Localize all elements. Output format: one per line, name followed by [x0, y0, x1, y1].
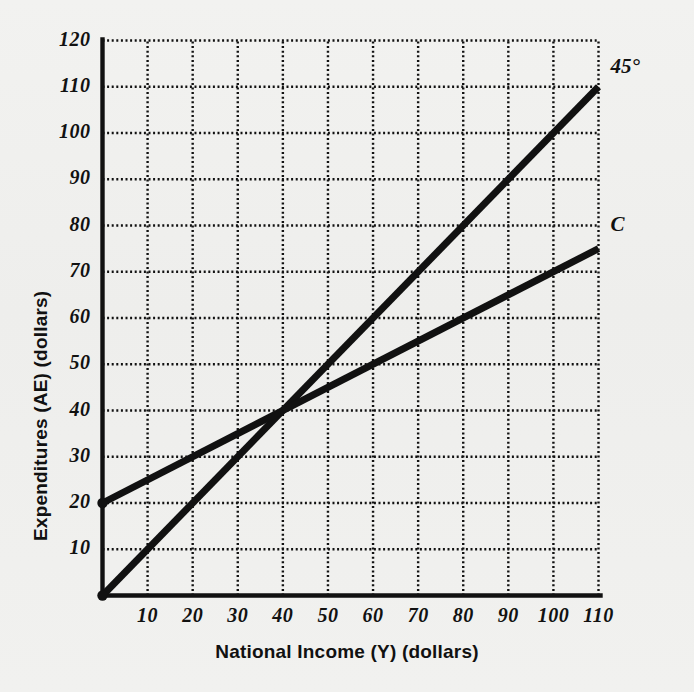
y-axis-tick-label: 120	[31, 28, 91, 51]
y-axis-tick-label: 100	[31, 120, 91, 143]
chart-plot-area	[0, 0, 694, 692]
x-axis-title: National Income (Y) (dollars)	[0, 641, 694, 663]
y-axis-tick-label: 80	[31, 213, 91, 236]
y-axis-title: Expenditures (AE) (dollars)	[30, 290, 52, 540]
curve-label-c: C	[611, 212, 625, 237]
series-line-c	[103, 249, 599, 503]
series-line-forty-five-degree	[103, 87, 599, 596]
series-marker	[97, 590, 107, 600]
x-axis-tick-label: 110	[569, 604, 629, 627]
grid-lines	[103, 41, 599, 596]
series-marker	[97, 498, 107, 508]
curve-label-45-degree: 45°	[611, 54, 640, 79]
y-axis-tick-label: 90	[31, 166, 91, 189]
y-axis-tick-label: 110	[31, 74, 91, 97]
data-series	[103, 87, 599, 596]
y-axis-tick-label: 70	[31, 259, 91, 282]
chart-figure: 1020304050607080901001101201020304050607…	[0, 0, 694, 692]
axis-lines	[101, 40, 601, 596]
